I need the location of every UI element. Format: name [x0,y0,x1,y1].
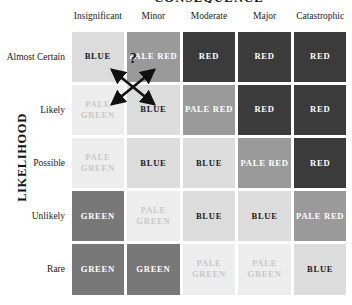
matrix-cell[interactable]: RED [294,138,347,188]
matrix-cell[interactable]: BLUE [72,32,125,82]
matrix-cell-label: PALE RED [127,51,179,62]
matrix-cell[interactable]: PALE GREEN [183,244,236,294]
row-header-rare: Rare [6,243,68,296]
matrix-row: GREEN GREEN PALE GREEN PALE GREEN BLUE [70,243,348,296]
matrix-cell[interactable]: PALE RED [238,138,291,188]
column-header-minor: Minor [126,9,182,27]
column-header-row: Insignificant Minor Moderate Major Catas… [70,9,348,27]
risk-matrix: CONSEQUENCE LIKELIHOOD Insignificant Min… [0,0,352,305]
matrix-cell[interactable]: RED [183,32,236,82]
matrix-cell[interactable]: BLUE [183,191,236,241]
matrix-cell-label: PALE RED [294,211,346,222]
matrix-cell-label: PALE GREEN [127,205,180,227]
row-header-possible: Possible [6,136,68,189]
matrix-cell[interactable]: RED [294,32,347,82]
matrix-cell-label: PALE GREEN [72,99,125,121]
column-header-major: Major [237,9,293,27]
matrix-cell-label: BLUE [83,51,113,62]
row-header-almost-certain: Almost Certain [6,30,68,83]
matrix-cell[interactable]: PALE RED [183,85,236,135]
matrix-cell-label: GREEN [134,264,172,275]
matrix-row: PALE GREEN BLUE BLUE PALE RED RED [70,136,348,189]
matrix-cell[interactable]: RED [238,32,291,82]
matrix-row: GREEN PALE GREEN BLUE BLUE PALE RED [70,190,348,243]
matrix-cell-label: RED [252,51,276,62]
matrix-cell-label: BLUE [138,104,168,115]
matrix-cell-label: RED [308,158,332,169]
matrix-cell-label: BLUE [194,211,224,222]
consequence-axis-title: CONSEQUENCE [70,0,348,3]
matrix-cell-label: PALE GREEN [72,152,125,174]
matrix-grid: BLUE PALE RED RED RED RED PALE GREEN BLU… [70,30,348,296]
matrix-cell-label: RED [197,51,221,62]
row-header-likely: Likely [6,83,68,136]
matrix-cell[interactable]: PALE GREEN [72,85,125,135]
matrix-cell-label: RED [308,51,332,62]
matrix-cell[interactable]: BLUE [127,138,180,188]
matrix-cell[interactable]: GREEN [72,244,125,294]
matrix-cell-label: RED [252,104,276,115]
matrix-cell-label: BLUE [249,211,279,222]
matrix-cell-label: BLUE [305,264,335,275]
matrix-cell[interactable]: BLUE [294,244,347,294]
matrix-cell[interactable]: RED [294,85,347,135]
column-header-catastrophic: Catastrophic [292,9,348,27]
matrix-cell-label: GREEN [79,211,117,222]
matrix-cell-label: RED [308,104,332,115]
row-header-unlikely: Unlikely [6,190,68,243]
matrix-cell[interactable]: GREEN [127,244,180,294]
matrix-cell-label: GREEN [79,264,117,275]
column-header-insignificant: Insignificant [70,9,126,27]
matrix-cell[interactable]: PALE RED [127,32,180,82]
matrix-cell[interactable]: BLUE [183,138,236,188]
matrix-cell[interactable]: RED [238,85,291,135]
matrix-cell-label: BLUE [138,158,168,169]
row-header-column: Almost Certain Likely Possible Unlikely … [6,30,68,296]
matrix-cell-label: PALE RED [183,104,235,115]
matrix-cell[interactable]: BLUE [127,85,180,135]
matrix-cell-label: BLUE [194,158,224,169]
column-header-moderate: Moderate [181,9,237,27]
matrix-cell-label: PALE RED [238,158,290,169]
matrix-cell[interactable]: PALE RED [294,191,347,241]
matrix-cell-label: PALE GREEN [183,258,236,280]
matrix-cell[interactable]: GREEN [72,191,125,241]
matrix-cell-label: PALE GREEN [238,258,291,280]
matrix-cell[interactable]: PALE GREEN [127,191,180,241]
matrix-cell[interactable]: PALE GREEN [238,244,291,294]
matrix-row: PALE GREEN BLUE PALE RED RED RED [70,83,348,136]
matrix-cell[interactable]: BLUE [238,191,291,241]
matrix-row: BLUE PALE RED RED RED RED [70,30,348,83]
matrix-cell[interactable]: PALE GREEN [72,138,125,188]
